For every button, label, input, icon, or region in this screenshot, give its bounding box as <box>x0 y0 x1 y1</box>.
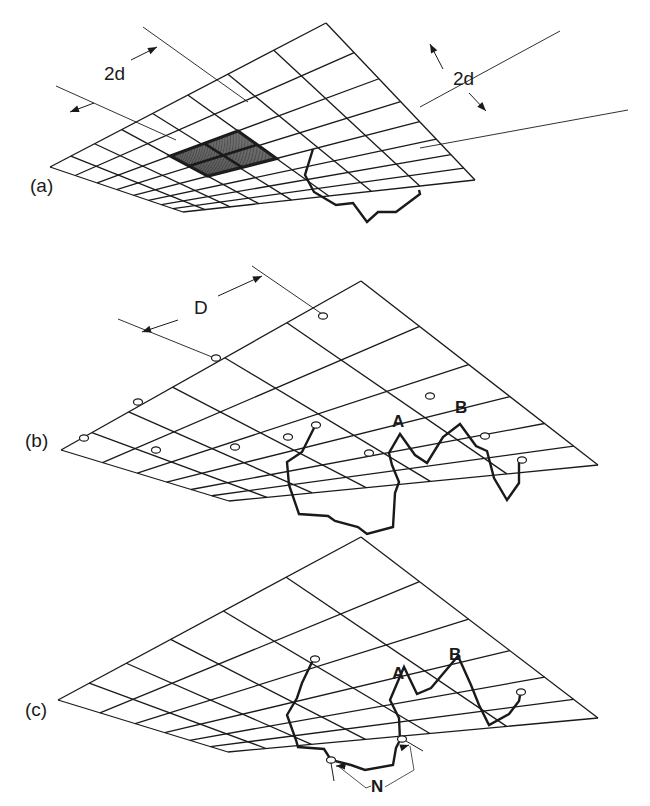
open-node-icon <box>426 393 435 399</box>
annotation-label-N: N <box>371 777 383 796</box>
grid-line <box>361 537 598 718</box>
open-node-icon <box>311 656 320 662</box>
point-label-B-c: B <box>449 645 461 664</box>
figure-canvas: (a) (b) (c) 2d 2d D A B A B N <box>0 0 650 806</box>
arrowhead-icon <box>430 44 437 54</box>
open-node-icon <box>134 399 143 405</box>
chain-path <box>305 149 420 222</box>
panel-c-grid-with-chain-N <box>58 537 598 788</box>
open-node-icon <box>365 450 374 456</box>
arrowhead-icon <box>147 47 157 54</box>
open-node-icon <box>212 355 221 361</box>
grid-lines <box>61 281 598 501</box>
grid-line <box>89 683 266 748</box>
grid-line <box>183 180 475 212</box>
tick-line <box>406 741 423 751</box>
open-node-icon <box>284 434 293 440</box>
arrowhead-icon <box>252 276 262 283</box>
extension-line <box>252 266 322 314</box>
panel-a-grid-with-hatched-block <box>50 23 628 222</box>
panel-label-a: (a) <box>30 175 53 196</box>
open-node-icon <box>312 422 321 428</box>
point-label-A-b: A <box>392 412 404 431</box>
open-node-icon <box>319 313 328 319</box>
extension-line <box>420 31 560 107</box>
grid-line <box>326 23 475 180</box>
grid-line <box>100 582 420 713</box>
grid-line <box>58 537 361 700</box>
grid-line <box>135 619 468 723</box>
dimension-label-2d-left: 2d <box>104 63 125 84</box>
point-label-B-b: B <box>455 398 467 417</box>
grid-line <box>229 465 598 501</box>
grid-lines <box>58 537 598 752</box>
arrowhead-icon <box>70 106 80 113</box>
panel-b-grid-with-open-nodes <box>61 266 598 534</box>
grid-line <box>361 281 598 465</box>
arrowhead-icon <box>399 745 409 752</box>
open-node-icon <box>152 447 161 453</box>
hatched-block <box>170 131 276 176</box>
grid-line <box>92 433 267 498</box>
grid-line <box>274 50 420 186</box>
chain-endpoint-node-icon <box>398 736 407 742</box>
dimension-label-2d-right: 2d <box>453 68 474 89</box>
panel-label-c: (c) <box>25 699 47 720</box>
panel-label-b: (b) <box>25 430 48 451</box>
dimension-label-D: D <box>194 297 208 318</box>
open-node-icon <box>518 457 527 463</box>
grid-line <box>61 450 229 501</box>
open-node-icon <box>517 689 526 695</box>
open-node-icon <box>80 435 89 441</box>
extension-line <box>420 110 628 148</box>
chain-path <box>287 424 519 534</box>
grid-lines <box>50 23 475 212</box>
grid-line <box>58 700 228 752</box>
open-node-icon <box>231 444 240 450</box>
grid-line <box>190 677 545 740</box>
tick-line <box>331 763 334 781</box>
point-label-A-c: A <box>392 664 404 683</box>
chain-endpoint-node-icon <box>327 757 336 763</box>
open-node-icon <box>481 433 490 439</box>
grid-line <box>102 326 419 462</box>
